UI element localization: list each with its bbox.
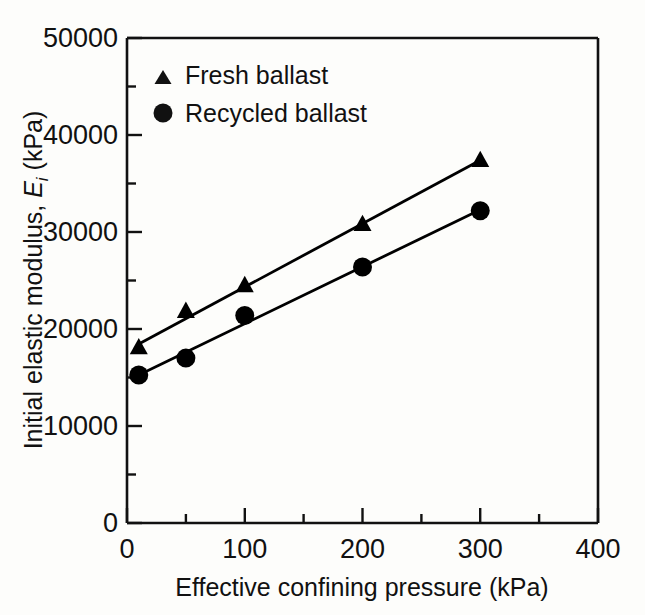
circle-marker-icon — [154, 104, 173, 123]
chart-figure: 0 10000 20000 30000 40000 50000 0 100 20… — [0, 0, 645, 615]
y-axis-title-symbol: E — [19, 181, 47, 198]
series-fresh-ballast — [130, 151, 490, 355]
legend-label: Recycled ballast — [185, 99, 367, 127]
legend-item-recycled-ballast: Recycled ballast — [154, 99, 368, 127]
x-tick-label: 0 — [119, 534, 134, 564]
data-layer — [129, 151, 489, 385]
y-axis-title-units: (kPa) — [19, 111, 47, 178]
y-tick-label: 0 — [103, 508, 118, 538]
legend-item-fresh-ballast: Fresh ballast — [155, 61, 329, 89]
x-tick-labels: 0 100 200 300 400 — [119, 534, 620, 564]
figure-page: 0 10000 20000 30000 40000 50000 0 100 20… — [0, 0, 645, 615]
y-tick-label: 40000 — [43, 120, 118, 150]
x-tick-label: 400 — [575, 534, 620, 564]
x-axis-title: Effective confining pressure (kPa) — [175, 573, 548, 601]
y-tick-label: 30000 — [43, 217, 118, 247]
y-tick-label: 50000 — [43, 23, 118, 53]
triangle-marker-icon — [471, 151, 489, 167]
triangle-marker-icon — [177, 302, 195, 318]
x-tick-label: 300 — [458, 534, 503, 564]
circle-marker-icon — [235, 306, 254, 325]
triangle-marker-icon — [353, 215, 371, 231]
y-axis-title: Initial elastic modulus, Ei (kPa) — [19, 111, 52, 450]
legend-label: Fresh ballast — [185, 61, 328, 89]
chart-legend: Fresh ballast Recycled ballast — [154, 61, 368, 127]
y-tick-labels: 0 10000 20000 30000 40000 50000 — [43, 23, 118, 538]
x-axis-ticks — [127, 508, 598, 523]
x-tick-label: 100 — [222, 534, 267, 564]
y-tick-label: 10000 — [43, 411, 118, 441]
circle-marker-icon — [471, 201, 490, 220]
triangle-marker-icon — [155, 70, 172, 84]
circle-marker-icon — [176, 349, 195, 368]
y-axis-title-prefix: Initial elastic modulus, — [19, 198, 47, 450]
y-axis-ticks — [127, 38, 142, 523]
y-tick-label: 20000 — [43, 314, 118, 344]
x-tick-label: 200 — [340, 534, 385, 564]
series-recycled-ballast — [129, 201, 489, 384]
circle-marker-icon — [129, 366, 148, 385]
circle-marker-icon — [353, 257, 372, 276]
svg-text:Initial elastic modulus, Ei (k: Initial elastic modulus, Ei (kPa) — [19, 111, 52, 450]
